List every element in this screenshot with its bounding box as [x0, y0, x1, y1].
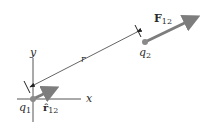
charge-q1-subscript: 1 [26, 106, 31, 115]
charge-q1-symbol: q [19, 101, 26, 114]
distance-tick-q2 [135, 25, 141, 37]
charge-q2-subscript: 2 [146, 51, 151, 60]
y-axis-label: y [29, 46, 37, 59]
unit-vector-arrow [33, 89, 54, 99]
charge-q1-label: q1 [19, 101, 31, 115]
charge-q1-dot [30, 96, 36, 102]
x-axis-label: x [86, 92, 93, 105]
distance-label: r [81, 54, 86, 64]
distance-tick-q1 [24, 81, 30, 93]
force-vector-label: F12 [154, 12, 172, 26]
charge-q2-symbol: q [139, 46, 146, 59]
charge-q2-label: q2 [139, 46, 151, 60]
force-vector-subscript: 12 [162, 17, 172, 26]
unit-vector-label: r̂12 [43, 102, 58, 115]
coulomb-diagram: y x r q1 q2 r̂12 F12 [0, 0, 216, 130]
unit-vector-subscript: 12 [48, 106, 58, 115]
charge-q2-dot [142, 39, 148, 45]
force-vector-symbol: F [154, 12, 162, 25]
